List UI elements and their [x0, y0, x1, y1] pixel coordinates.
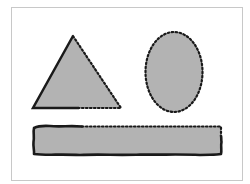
triangle-shape — [33, 36, 121, 108]
ellipse-dotted-outline — [146, 32, 203, 112]
ellipse-shape — [146, 32, 203, 112]
shapes-canvas — [0, 0, 250, 184]
rectangle-shape — [33, 126, 221, 155]
